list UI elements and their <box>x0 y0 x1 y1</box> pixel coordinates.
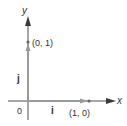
vector-j-arrow-icon <box>26 43 31 51</box>
vector-j <box>26 40 31 101</box>
point-1-0 <box>87 99 90 102</box>
y-axis-arrow-icon <box>25 16 31 26</box>
vector-i <box>28 99 91 104</box>
vector-i-arrow-icon <box>80 99 88 104</box>
point-0-1 <box>26 40 29 43</box>
point-0-1-label: (0, 1) <box>32 38 53 48</box>
origin-label: 0 <box>17 106 22 116</box>
vector-j-label: j <box>16 73 20 84</box>
x-axis-arrow-icon <box>106 98 116 104</box>
vector-i-label: i <box>51 105 54 116</box>
x-axis-label: x <box>116 95 123 106</box>
unit-vector-diagram: y x 0 j i (0, 1) (1, 0) <box>0 0 127 126</box>
y-axis-label: y <box>21 5 28 16</box>
point-1-0-label: (1, 0) <box>69 108 90 118</box>
